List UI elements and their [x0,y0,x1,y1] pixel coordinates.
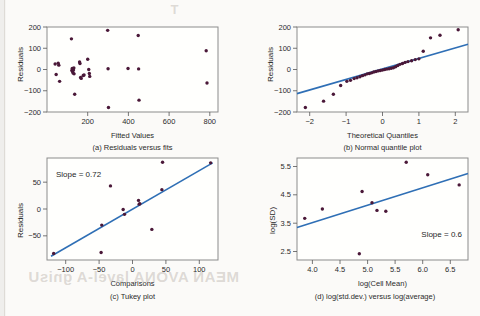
data-point [345,80,348,83]
svg-text:50: 50 [162,265,170,274]
data-point [72,72,75,75]
data-point [209,161,212,164]
data-point [150,228,153,231]
svg-text:50: 50 [33,178,41,187]
data-point [54,73,57,76]
svg-text:200: 200 [28,23,41,32]
data-point [137,67,140,70]
svg-text:600: 600 [163,117,176,126]
svg-text:6.5: 6.5 [445,265,455,274]
panel-d-slope-annotation: Slope = 0.6 [421,230,462,239]
data-point [137,34,140,37]
panel-c-x-axis-title: Comparisons [47,279,218,288]
data-point [121,208,124,211]
data-point [355,76,358,79]
data-point [303,217,306,220]
svg-text:1: 1 [417,117,421,126]
data-point [88,75,91,78]
svg-text:6.0: 6.0 [417,265,427,274]
data-point [106,67,109,70]
panel-a-caption: (a) Residuals versus fits [27,143,238,152]
data-point [358,252,361,255]
data-point [100,223,103,226]
data-point [53,62,56,65]
panel-c-caption: (c) Tukey plot [27,292,238,301]
data-point [456,28,459,31]
data-point [457,183,460,186]
data-point [410,59,413,62]
svg-text:−100: −100 [24,86,41,95]
svg-text:2.5: 2.5 [281,247,291,256]
data-point [370,201,373,204]
data-point [403,61,406,64]
data-point [123,213,126,216]
data-point [109,184,112,187]
data-point [88,72,91,75]
svg-text:100: 100 [278,44,291,53]
panel-d-x-axis-title: log(Cell Mean) [297,279,468,288]
data-point [352,77,355,80]
data-point [205,81,208,84]
data-point [106,29,109,32]
data-point [52,252,55,255]
panel-normal-quantile-plot: Residuals 200 100 0 −100 −200 −2 −1 0 1 … [240,0,480,158]
svg-text:0: 0 [380,117,384,126]
svg-text:100: 100 [193,265,206,274]
svg-text:200: 200 [278,23,291,32]
data-point [87,68,90,71]
svg-text:0: 0 [130,265,134,274]
panel-log-sd-versus-log-mean: log(SD) 5.5 4.5 3.5 2.5 4.0 4.5 5.0 5.5 … [240,158,480,316]
panel-c-slope-annotation: Slope = 0.72 [56,170,102,179]
svg-text:0: 0 [287,65,291,74]
data-point [107,106,110,109]
data-point [426,173,429,176]
svg-text:0: 0 [37,65,41,74]
data-point [405,161,408,164]
data-point [321,207,324,210]
svg-text:−200: −200 [24,108,41,117]
data-point [73,93,76,96]
svg-text:800: 800 [204,117,217,126]
svg-text:−100: −100 [57,265,74,274]
data-point [360,190,363,193]
svg-text:0: 0 [37,205,41,214]
data-point [417,57,420,60]
svg-text:4.5: 4.5 [335,265,345,274]
svg-text:5.5: 5.5 [281,162,291,171]
svg-text:400: 400 [122,117,135,126]
data-point [304,106,307,109]
svg-text:4.5: 4.5 [281,190,291,199]
data-point [138,202,141,205]
svg-text:−2: −2 [305,117,314,126]
data-point [57,63,60,66]
data-point [86,58,89,61]
svg-text:−200: −200 [274,108,291,117]
svg-text:−50: −50 [28,231,41,240]
svg-text:200: 200 [81,117,94,126]
svg-text:5.0: 5.0 [362,265,372,274]
data-point [349,79,352,82]
data-point [322,99,325,102]
svg-text:3.5: 3.5 [281,219,291,228]
data-point [160,188,163,191]
data-point [438,34,441,37]
svg-text:−1: −1 [342,117,351,126]
data-point [161,161,164,164]
data-point [137,199,140,202]
data-point [82,73,85,76]
panel-residuals-versus-fits: Residuals 200 100 0 −100 −200 200 400 60… [0,0,240,158]
data-point [99,251,102,254]
data-point [58,80,61,83]
data-point [414,58,417,61]
data-point [204,49,207,52]
data-point [332,93,335,96]
svg-text:2: 2 [453,117,457,126]
data-point [339,84,342,87]
data-point [72,66,75,69]
panel-tukey-plot: Residuals 50 0 −50 −100 −50 0 50 100 Slo… [0,158,240,316]
data-point [375,209,378,212]
panel-b-x-axis-title: Theoretical Quantiles [297,131,468,140]
svg-text:−50: −50 [93,265,106,274]
data-point [384,210,387,213]
data-point [80,77,83,80]
